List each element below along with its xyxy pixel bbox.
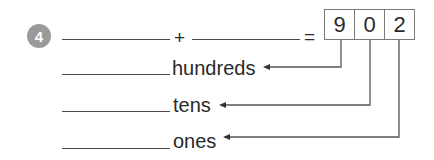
ones-arrow-icon bbox=[223, 134, 230, 140]
connector-arrows bbox=[0, 0, 434, 160]
tens-arrow-icon bbox=[219, 102, 226, 108]
hundreds-connector bbox=[267, 40, 341, 67]
hundreds-arrow-icon bbox=[263, 64, 270, 70]
ones-connector bbox=[227, 40, 399, 137]
tens-connector bbox=[223, 40, 370, 105]
